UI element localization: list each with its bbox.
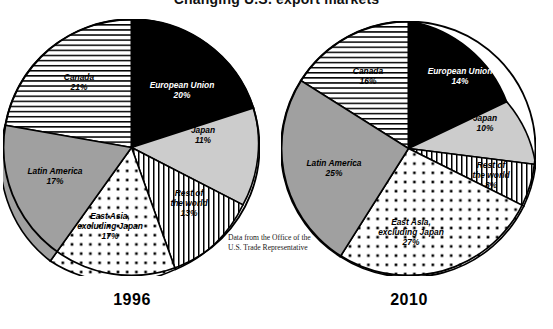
- page-title: Changing U.S. export markets: [0, 0, 553, 7]
- figure-root: Changing U.S. export markets: [0, 0, 553, 329]
- year-label-1996: 1996: [82, 291, 182, 309]
- attribution-line-2: U.S. Trade Representative: [228, 243, 346, 253]
- slice-label-latin-america-2010: Latin America 25%: [288, 158, 380, 178]
- slice-label-canada-1996: Canada 21%: [37, 72, 121, 92]
- slice-label-european-union-2010: European Union 14%: [408, 66, 512, 86]
- slice-label-japan-2010: Japan 10%: [448, 113, 522, 133]
- pie-chart-1996: European Union 20% Japan 11% Rest of the…: [3, 19, 260, 276]
- slice-label-east-asia-1996: East Asia, excluding Japan 17%: [60, 211, 160, 242]
- source-attribution: Data from the Office of the U.S. Trade R…: [228, 233, 346, 252]
- slice-label-rest-of-the-world-1996: Rest of the world 13%: [155, 188, 223, 219]
- slice-label-rest-of-the-world-2010: Rest of the world 8%: [457, 160, 525, 191]
- slice-label-latin-america-1996: Latin America 17%: [9, 166, 101, 186]
- slice-label-european-union-1996: European Union 20%: [130, 80, 234, 100]
- slice-label-japan-1996: Japan 11%: [166, 125, 240, 145]
- attribution-line-1: Data from the Office of the: [228, 233, 346, 243]
- slice-label-east-asia-2010: East Asia, excluding Japan 27%: [361, 217, 461, 248]
- slice-label-canada-2010: Canada 16%: [326, 66, 410, 86]
- year-label-2010: 2010: [359, 291, 459, 309]
